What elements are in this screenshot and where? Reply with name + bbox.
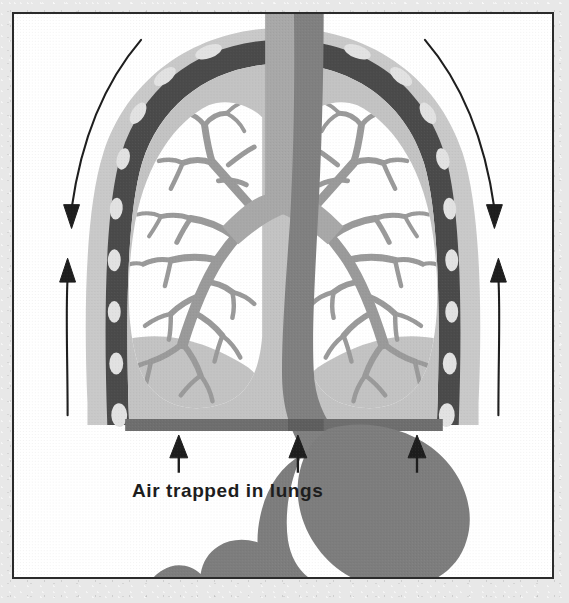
illustration-plate: Air trapped in lungs [12,12,554,579]
illustration-canvas: Air trapped in lungs [14,14,552,577]
caption-air-trapped-in-lungs: Air trapped in lungs [132,480,323,502]
figure-root: Air trapped in lungs [0,0,569,603]
